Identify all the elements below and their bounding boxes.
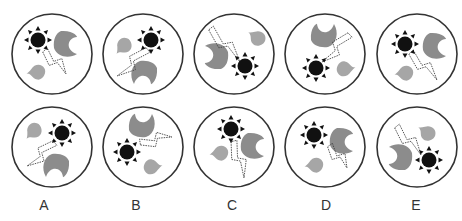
option-panel-c[interactable] — [194, 107, 274, 187]
sun-icon — [24, 26, 52, 54]
puzzle-figure — [0, 0, 462, 221]
option-panel-d[interactable] — [285, 107, 365, 187]
sun-icon — [415, 146, 443, 174]
sun-icon — [302, 54, 330, 82]
sun-icon — [231, 52, 259, 80]
panel-circle — [194, 14, 274, 94]
sun-icon — [137, 26, 165, 54]
option-label-b[interactable]: B — [121, 197, 151, 213]
sun-icon — [48, 119, 76, 147]
panel-circle — [377, 14, 457, 94]
panel-circle — [12, 107, 92, 187]
panel-circle — [194, 107, 274, 187]
option-panel-a[interactable] — [12, 107, 92, 187]
option-label-d[interactable]: D — [311, 197, 341, 213]
option-panel-e[interactable] — [377, 107, 457, 187]
option-label-a[interactable]: A — [29, 197, 59, 213]
sun-icon — [113, 138, 141, 166]
panel-circle — [285, 107, 365, 187]
sequence-panel-1 — [12, 14, 92, 94]
sequence-panel-2 — [103, 14, 183, 94]
panel-circle — [103, 14, 183, 94]
option-panel-b[interactable] — [103, 107, 183, 187]
sun-icon — [300, 121, 328, 149]
option-label-e[interactable]: E — [401, 197, 431, 213]
panel-circle — [12, 14, 92, 94]
panel-circle — [103, 107, 183, 187]
sun-icon — [391, 30, 419, 58]
option-label-c[interactable]: C — [217, 197, 247, 213]
sun-icon — [217, 115, 245, 143]
sequence-panel-4 — [285, 14, 365, 94]
panel-circle — [285, 14, 365, 94]
sequence-panel-5 — [377, 14, 457, 94]
sequence-panel-3 — [194, 14, 274, 94]
